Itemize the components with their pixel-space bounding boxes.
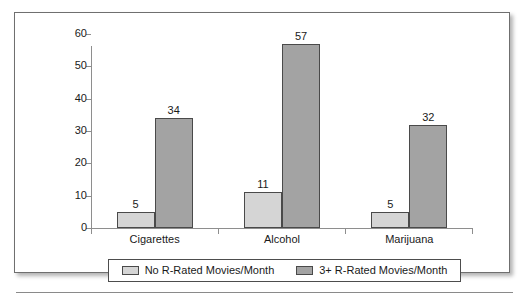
y-axis-line	[91, 46, 92, 228]
bar-value-label: 34	[168, 104, 180, 116]
bar-value-label: 57	[295, 30, 307, 42]
legend-swatch-icon	[296, 266, 313, 275]
figure-frame: 0102030405060 5341157532 CigarettesAlcoh…	[14, 12, 510, 273]
y-axis-tick-label: 30	[75, 124, 87, 137]
bar-value-label: 32	[422, 111, 434, 123]
bar: 34	[155, 118, 193, 228]
x-axis-separator-tick	[218, 228, 219, 234]
bar: 32	[409, 125, 447, 228]
legend-item-3-plus-r-rated: 3+ R-Rated Movies/Month	[296, 264, 447, 277]
y-axis-tick-label: 60	[75, 27, 87, 40]
bar-value-label: 5	[387, 198, 393, 210]
bar-value-label: 11	[257, 178, 268, 190]
y-axis-tick-label: 20	[75, 156, 87, 169]
y-axis-tick-label: 10	[75, 189, 87, 202]
bar-value-label: 5	[133, 198, 139, 210]
legend-item-label: No R-Rated Movies/Month	[145, 264, 275, 277]
chart-legend: No R-Rated Movies/Month 3+ R-Rated Movie…	[108, 259, 461, 282]
x-axis-category-label: Alcohol	[264, 232, 300, 246]
bar: 11	[244, 192, 282, 228]
bar: 57	[282, 44, 320, 228]
y-axis-tick-label: 0	[81, 221, 87, 234]
x-axis-category-label: Cigarettes	[130, 232, 180, 246]
bottom-divider-rule	[16, 292, 513, 293]
x-axis-separator-tick	[91, 228, 92, 234]
x-axis-category-label: Marijuana	[385, 232, 433, 246]
legend-swatch-icon	[122, 266, 139, 275]
plot-area: 0102030405060 5341157532 CigarettesAlcoh…	[91, 34, 473, 228]
x-axis-separator-tick	[472, 228, 473, 234]
y-axis-tick-label: 40	[75, 92, 87, 105]
x-axis-line	[91, 228, 473, 229]
bar: 5	[371, 212, 409, 228]
legend-item-no-r-rated: No R-Rated Movies/Month	[122, 264, 275, 277]
x-axis-separator-tick	[345, 228, 346, 234]
y-axis-tick-label: 50	[75, 59, 87, 72]
bar: 5	[117, 212, 155, 228]
legend-item-label: 3+ R-Rated Movies/Month	[319, 264, 447, 277]
